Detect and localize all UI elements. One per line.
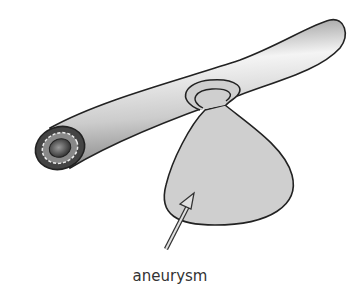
aneurysm-neck — [186, 80, 240, 110]
aneurysm-sac — [164, 105, 293, 225]
aneurysm-diagram: aneurysm — [0, 0, 361, 303]
aneurysm-label: aneurysm — [133, 267, 208, 285]
